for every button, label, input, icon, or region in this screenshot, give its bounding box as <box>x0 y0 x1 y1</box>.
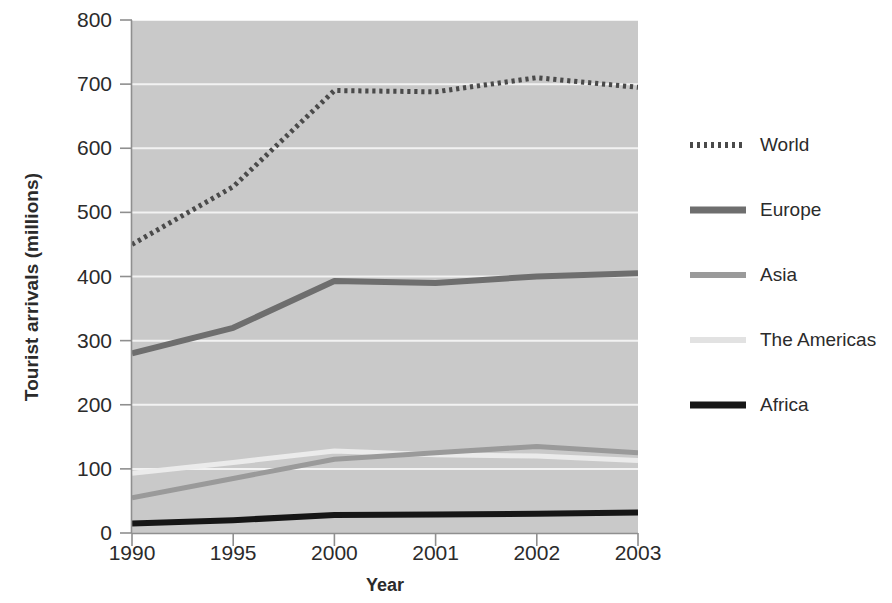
x-tick-label: 1995 <box>183 542 283 563</box>
legend-swatch-icon <box>690 203 746 217</box>
x-tick-label: 2002 <box>487 542 587 563</box>
x-tick-label: 2003 <box>588 542 688 563</box>
legend-label: World <box>760 134 809 156</box>
x-axis-tick-labels: 199019952000200120022003 <box>0 0 892 603</box>
legend-swatch-icon <box>690 138 746 152</box>
legend-item-the-americas[interactable]: The Americas <box>690 327 876 353</box>
legend-label: Asia <box>760 264 797 286</box>
x-tick-label: 1990 <box>82 542 182 563</box>
x-tick-label: 2000 <box>284 542 384 563</box>
legend-label: Africa <box>760 394 809 416</box>
legend-swatch-icon <box>690 398 746 412</box>
legend-item-world[interactable]: World <box>690 132 809 158</box>
legend-swatch-icon <box>690 268 746 282</box>
legend-label: The Americas <box>760 329 876 351</box>
x-tick-label: 2001 <box>386 542 486 563</box>
legend-item-europe[interactable]: Europe <box>690 197 821 223</box>
legend-item-asia[interactable]: Asia <box>690 262 797 288</box>
legend-label: Europe <box>760 199 821 221</box>
legend-item-africa[interactable]: Africa <box>690 392 809 418</box>
x-axis-title: Year <box>132 575 638 596</box>
legend-swatch-icon <box>690 333 746 347</box>
chart-figure: Tourist arrivals (millions) 010020030040… <box>0 0 892 603</box>
